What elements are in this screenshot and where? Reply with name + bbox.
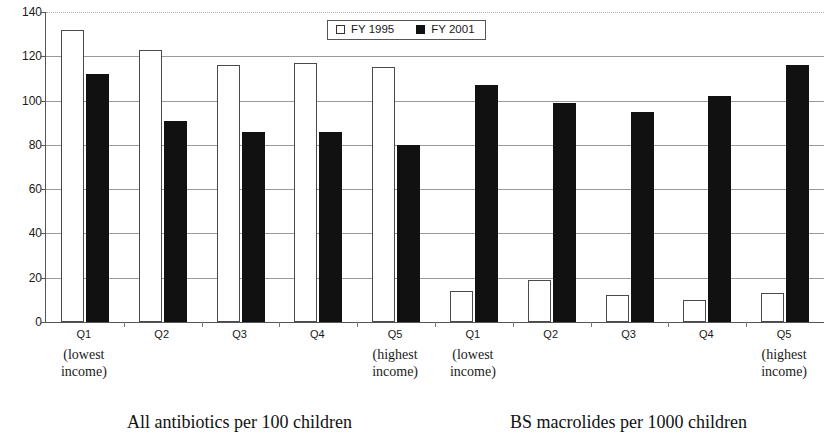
x-axis-category-5: Q5(highest income) — [356, 328, 434, 380]
x-axis-category-label: Q4 — [667, 328, 745, 340]
x-axis-category-label: Q2 — [123, 328, 201, 340]
bar — [708, 96, 731, 322]
bar — [631, 112, 654, 322]
x-axis-category-7: Q2 — [512, 328, 590, 347]
x-axis-category-8: Q3 — [590, 328, 668, 347]
y-axis-tick-label: 80 — [2, 138, 42, 152]
x-axis-category-label: Q1 — [45, 328, 123, 340]
bar — [139, 50, 162, 322]
x-axis-category-label: Q2 — [512, 328, 590, 340]
y-axis-tick-label: 100 — [2, 94, 42, 108]
x-axis-category-note: (lowest income) — [45, 347, 123, 380]
x-axis-tick-mark — [357, 322, 358, 327]
panel-caption-right: BS macrolides per 1000 children — [434, 412, 823, 433]
bars-layer — [46, 12, 824, 322]
bar — [242, 132, 265, 322]
bar — [450, 291, 473, 322]
x-axis-tick-mark — [746, 322, 747, 327]
x-axis-category-label: Q1 — [434, 328, 512, 340]
y-axis-tick-label: 20 — [2, 271, 42, 285]
bar — [786, 65, 809, 322]
y-axis-tick-label: 120 — [2, 49, 42, 63]
x-axis-tick-mark — [124, 322, 125, 327]
bar — [294, 63, 317, 322]
bar — [86, 74, 109, 322]
bar — [606, 295, 629, 322]
y-axis-tick-label: 140 — [2, 5, 42, 19]
x-axis-category-note: (highest income) — [745, 347, 823, 380]
bar — [164, 121, 187, 323]
x-axis-category-label: Q3 — [590, 328, 668, 340]
bar-chart: 140120100806040200 FY 1995 FY 2001 Q1(lo… — [0, 0, 831, 441]
bar — [475, 85, 498, 322]
y-axis-tick-label: 0 — [2, 315, 42, 329]
x-axis-category-label: Q3 — [201, 328, 279, 340]
x-axis-category-2: Q2 — [123, 328, 201, 347]
x-axis-category-3: Q3 — [201, 328, 279, 347]
plot-area — [45, 12, 824, 323]
bar — [553, 103, 576, 322]
legend-label-fy2001: FY 2001 — [431, 24, 474, 36]
x-axis-tick-mark — [668, 322, 669, 327]
bar — [217, 65, 240, 322]
y-axis-tick-mark — [41, 322, 46, 323]
bar — [397, 145, 420, 322]
x-axis-category-4: Q4 — [278, 328, 356, 347]
x-axis-category-note: (highest income) — [356, 347, 434, 380]
x-axis-category-1: Q1(lowest income) — [45, 328, 123, 380]
y-axis-tick-label: 60 — [2, 182, 42, 196]
x-axis-category-note: (lowest income) — [434, 347, 512, 380]
x-axis-tick-mark — [591, 322, 592, 327]
bar — [372, 67, 395, 322]
bar — [761, 293, 784, 322]
open-square-swatch-icon — [336, 25, 345, 34]
panel-caption-left: All antibiotics per 100 children — [45, 412, 434, 433]
x-axis-category-label: Q4 — [278, 328, 356, 340]
bar — [683, 300, 706, 322]
legend-item-fy2001: FY 2001 — [416, 24, 474, 36]
x-axis-category-label: Q5 — [745, 328, 823, 340]
chart-legend: FY 1995 FY 2001 — [327, 20, 486, 40]
x-axis-tick-mark — [279, 322, 280, 327]
y-axis-tick-label: 40 — [2, 226, 42, 240]
x-axis-category-label: Q5 — [356, 328, 434, 340]
x-axis-category-9: Q4 — [667, 328, 745, 347]
filled-square-swatch-icon — [416, 25, 425, 34]
x-axis-category-10: Q5(highest income) — [745, 328, 823, 380]
x-axis-labels: Q1(lowest income)Q2Q3Q4Q5(highest income… — [45, 328, 823, 398]
bar — [61, 30, 84, 322]
x-axis-category-6: Q1(lowest income) — [434, 328, 512, 380]
legend-item-fy1995: FY 1995 — [336, 24, 394, 36]
bar — [528, 280, 551, 322]
legend-label-fy1995: FY 1995 — [351, 24, 394, 36]
x-axis-tick-mark — [202, 322, 203, 327]
bar — [319, 132, 342, 322]
x-axis-tick-mark — [435, 322, 436, 327]
x-axis-tick-mark — [513, 322, 514, 327]
